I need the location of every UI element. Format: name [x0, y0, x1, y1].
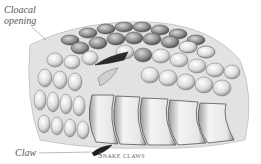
cloacal-leader-line	[32, 27, 46, 40]
snake-scales-drawing	[0, 0, 261, 164]
figure-caption: Snake claws	[98, 151, 145, 160]
label-cloacal-line2: opening	[4, 16, 36, 26]
illustration: Cloacal opening Claw Snake claws	[0, 0, 261, 164]
claw-leader-line	[39, 152, 92, 153]
label-claw: Claw	[15, 148, 36, 158]
label-cloacal-line1: Cloacal	[4, 5, 36, 15]
label-cloacal-opening: Cloacal opening	[4, 5, 36, 26]
